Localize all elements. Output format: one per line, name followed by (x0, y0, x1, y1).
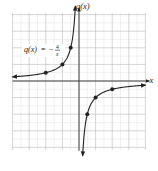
function-label-sign: − (49, 45, 54, 54)
data-point (60, 62, 64, 66)
data-point (110, 87, 114, 91)
function-graph: q(x) x q(x) = − 4 x (0, 0, 158, 171)
function-label-numerator: 4 (56, 44, 59, 50)
function-label: q(x) = − 4 x (22, 44, 65, 57)
function-label-lhs: q(x) (24, 45, 37, 54)
data-point (69, 46, 73, 50)
function-label-equals: = (41, 45, 46, 54)
data-point (94, 96, 98, 100)
curve-left-branch (13, 6, 76, 77)
curve-right-branch (83, 85, 146, 156)
y-axis-label: q(x) (76, 1, 90, 11)
x-axis-label: x (148, 75, 153, 85)
data-point (85, 112, 89, 116)
data-point (44, 71, 48, 75)
function-label-denominator: x (55, 51, 59, 57)
